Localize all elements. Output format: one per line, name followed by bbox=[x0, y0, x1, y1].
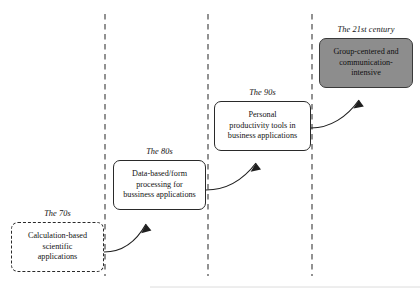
stage-box-70s-text: Calculation-basedscientificapplications bbox=[15, 231, 100, 264]
stage-box-21st-century[interactable]: Group-centered andcommunication-intensiv… bbox=[319, 38, 413, 88]
arrow-80s-to-90s-curve bbox=[206, 163, 256, 190]
stage-box-90s-text: Personalproductivity tools inbusiness ap… bbox=[218, 110, 307, 143]
arrow-90s-to-21st bbox=[311, 100, 364, 128]
era-label-90s: The 90s bbox=[214, 88, 311, 97]
stage-box-21st-century-text: Group-centered andcommunication-intensiv… bbox=[323, 47, 409, 80]
era-label-21st-century: The 21st century bbox=[319, 25, 413, 34]
arrow-80s-to-90s bbox=[206, 163, 261, 190]
arrow-90s-to-21st-curve bbox=[311, 100, 359, 128]
stage-box-70s[interactable]: Calculation-basedscientificapplications bbox=[11, 222, 104, 272]
era-label-80s: The 80s bbox=[113, 147, 206, 156]
arrow-70s-to-80s bbox=[104, 224, 151, 252]
era-label-70s: The 70s bbox=[11, 209, 104, 218]
arrow-70s-to-80s-curve bbox=[104, 224, 146, 252]
arrow-90s-to-21st-head bbox=[353, 100, 363, 109]
stage-box-80s-text: Data-based/formprocessing forbussiness a… bbox=[117, 169, 202, 202]
stage-box-80s[interactable]: Data-based/formprocessing forbussiness a… bbox=[113, 160, 206, 210]
stage-box-90s[interactable]: Personalproductivity tools inbusiness ap… bbox=[214, 101, 311, 151]
evolution-of-computing-diagram: The 70s Calculation-basedscientificappli… bbox=[0, 0, 420, 290]
